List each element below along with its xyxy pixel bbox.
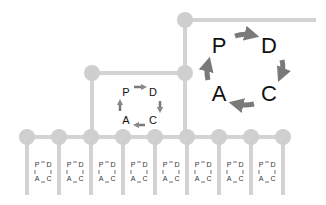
svg-text:P: P [163, 161, 168, 168]
small-pdca-cycle: PD AC [99, 161, 116, 182]
svg-text:C: C [238, 175, 243, 182]
mid-pdca-cycle: P D A C [120, 86, 160, 126]
small-pdca-cycle: PD AC [131, 161, 148, 182]
svg-text:C: C [206, 175, 211, 182]
svg-text:D: D [174, 161, 179, 168]
label-a: A [122, 114, 130, 126]
svg-text:D: D [46, 161, 51, 168]
svg-text:C: C [46, 175, 51, 182]
svg-text:P: P [35, 161, 40, 168]
small-pdca-cycle: PD AC [35, 161, 52, 182]
svg-text:P: P [195, 161, 200, 168]
node-bottom [275, 129, 291, 145]
node-mid-left [84, 65, 100, 81]
svg-text:D: D [270, 161, 275, 168]
node-mid-right [177, 65, 193, 81]
svg-text:C: C [174, 175, 179, 182]
svg-text:P: P [131, 161, 136, 168]
small-pdca-cycle: PD AC [259, 161, 276, 182]
svg-text:D: D [110, 161, 115, 168]
svg-text:C: C [142, 175, 147, 182]
label-d: D [149, 86, 157, 98]
svg-text:D: D [206, 161, 211, 168]
svg-text:D: D [142, 161, 147, 168]
svg-text:D: D [78, 161, 83, 168]
label-p: P [212, 33, 227, 58]
small-pdca-cycle: PD AC [163, 161, 180, 182]
label-d: D [261, 33, 277, 58]
label-c: C [149, 114, 157, 126]
svg-text:A: A [99, 175, 104, 182]
node-bottom [51, 129, 67, 145]
svg-text:D: D [238, 161, 243, 168]
node-bottom [211, 129, 227, 145]
small-pdca-cycle: PD AC [227, 161, 244, 182]
node-bottom [179, 129, 195, 145]
node-bottom [147, 129, 163, 145]
svg-text:A: A [259, 175, 264, 182]
svg-text:C: C [110, 175, 115, 182]
svg-text:C: C [270, 175, 275, 182]
small-pdca-cycle: PD AC [67, 161, 84, 182]
node-bottom [243, 129, 259, 145]
svg-text:A: A [163, 175, 168, 182]
svg-text:P: P [227, 161, 232, 168]
node-bottom [83, 129, 99, 145]
diagram-canvas: P D A C P D A C PD AC [0, 0, 326, 205]
pdca-hierarchy-diagram: P D A C P D A C PD AC [0, 0, 326, 205]
svg-text:A: A [227, 175, 232, 182]
svg-text:A: A [35, 175, 40, 182]
svg-text:A: A [67, 175, 72, 182]
svg-text:C: C [78, 175, 83, 182]
svg-text:P: P [99, 161, 104, 168]
label-c: C [261, 81, 277, 106]
svg-text:P: P [259, 161, 264, 168]
node-top [177, 12, 193, 28]
svg-text:P: P [67, 161, 72, 168]
node-bottom [115, 129, 131, 145]
label-a: A [212, 81, 227, 106]
svg-text:A: A [195, 175, 200, 182]
small-pdca-cycle: PD AC [195, 161, 212, 182]
node-bottom [19, 129, 35, 145]
svg-text:A: A [131, 175, 136, 182]
label-p: P [122, 86, 129, 98]
top-pdca-cycle: P D A C [207, 33, 283, 106]
